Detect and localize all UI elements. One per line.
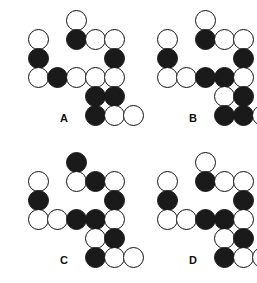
filled-circle-node <box>195 209 216 230</box>
open-circle-node <box>66 67 87 88</box>
filled-circle-node <box>195 29 216 50</box>
open-circle-node <box>233 67 254 88</box>
open-circle-node <box>104 67 125 88</box>
panel-label-c: C <box>0 254 128 266</box>
open-circle-node <box>47 209 68 230</box>
figure-board: ABCD <box>0 0 257 283</box>
filled-circle-node <box>214 67 235 88</box>
filled-circle-node <box>195 67 216 88</box>
filled-circle-node <box>233 190 254 211</box>
panel-figure-b <box>129 0 257 118</box>
filled-circle-node <box>47 67 68 88</box>
panel-figure-c <box>0 142 128 260</box>
filled-circle-node <box>214 209 235 230</box>
open-circle-node <box>233 171 254 192</box>
open-circle-node <box>157 171 178 192</box>
filled-circle-node <box>104 86 125 107</box>
filled-circle-node <box>85 86 106 107</box>
open-circle-node <box>233 209 254 230</box>
filled-circle-node <box>28 190 49 211</box>
panel-figure-a <box>0 0 128 118</box>
filled-circle-node <box>104 48 125 69</box>
filled-circle-node <box>85 209 106 230</box>
filled-circle-node <box>104 190 125 211</box>
filled-circle-node <box>66 209 87 230</box>
open-circle-node <box>85 228 106 249</box>
answer-panel-c[interactable]: C <box>0 142 128 283</box>
filled-circle-node <box>66 29 87 50</box>
open-circle-node <box>157 29 178 50</box>
filled-circle-node <box>28 48 49 69</box>
open-circle-node <box>176 67 197 88</box>
filled-circle-node <box>66 152 87 173</box>
open-circle-node <box>214 86 235 107</box>
open-circle-node <box>85 29 106 50</box>
open-circle-node <box>157 67 178 88</box>
open-circle-node <box>28 29 49 50</box>
filled-circle-node <box>233 228 254 249</box>
open-circle-node <box>195 10 216 31</box>
filled-circle-node <box>233 48 254 69</box>
filled-circle-node <box>157 190 178 211</box>
panel-label-a: A <box>0 112 128 124</box>
filled-circle-node <box>195 171 216 192</box>
open-circle-node <box>66 10 87 31</box>
open-circle-node <box>176 209 197 230</box>
open-circle-node <box>104 209 125 230</box>
open-circle-node <box>28 67 49 88</box>
open-circle-node <box>104 29 125 50</box>
answer-panel-d[interactable]: D <box>129 142 257 283</box>
open-circle-node <box>233 29 254 50</box>
open-circle-node <box>195 152 216 173</box>
filled-circle-node <box>233 86 254 107</box>
filled-circle-node <box>104 228 125 249</box>
open-circle-node <box>214 171 235 192</box>
filled-circle-node <box>157 48 178 69</box>
panel-label-b: B <box>129 112 257 124</box>
open-circle-node <box>104 171 125 192</box>
open-circle-node <box>85 67 106 88</box>
open-circle-node <box>66 171 87 192</box>
open-circle-node <box>214 228 235 249</box>
open-circle-node <box>157 209 178 230</box>
open-circle-node <box>214 29 235 50</box>
panel-figure-d <box>129 142 257 260</box>
answer-panel-a[interactable]: A <box>0 0 128 141</box>
filled-circle-node <box>85 171 106 192</box>
open-circle-node <box>28 171 49 192</box>
answer-panel-b[interactable]: B <box>129 0 257 141</box>
panel-label-d: D <box>129 254 257 266</box>
open-circle-node <box>28 209 49 230</box>
